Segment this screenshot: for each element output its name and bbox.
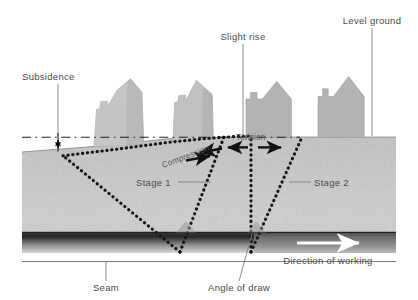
label-tension: Tension xyxy=(236,133,266,142)
seam-band-left xyxy=(22,232,254,253)
house-2-shading xyxy=(173,80,203,141)
label-seam: Seam xyxy=(93,282,119,293)
label-stage-2: Stage 2 xyxy=(314,177,349,188)
label-angle-of-draw: Angle of draw xyxy=(208,282,270,293)
label-level-ground: Level ground xyxy=(343,15,402,26)
house-1-subsided xyxy=(94,79,144,147)
house-4-body xyxy=(318,77,364,138)
label-slight-rise: Slight rise xyxy=(220,31,265,42)
label-subsidence: Subsidence xyxy=(22,71,75,82)
house-3 xyxy=(246,81,291,137)
house-4 xyxy=(318,77,364,138)
house-2 xyxy=(173,80,213,141)
subsidence-diagram: Subsidence Slight rise Level ground Comp… xyxy=(0,0,418,300)
house-3-body xyxy=(246,81,291,137)
label-direction-of-working: Direction of working xyxy=(283,255,372,266)
label-stage-1: Stage 1 xyxy=(136,177,171,188)
diagram-canvas: Subsidence Slight rise Level ground Comp… xyxy=(0,0,418,300)
